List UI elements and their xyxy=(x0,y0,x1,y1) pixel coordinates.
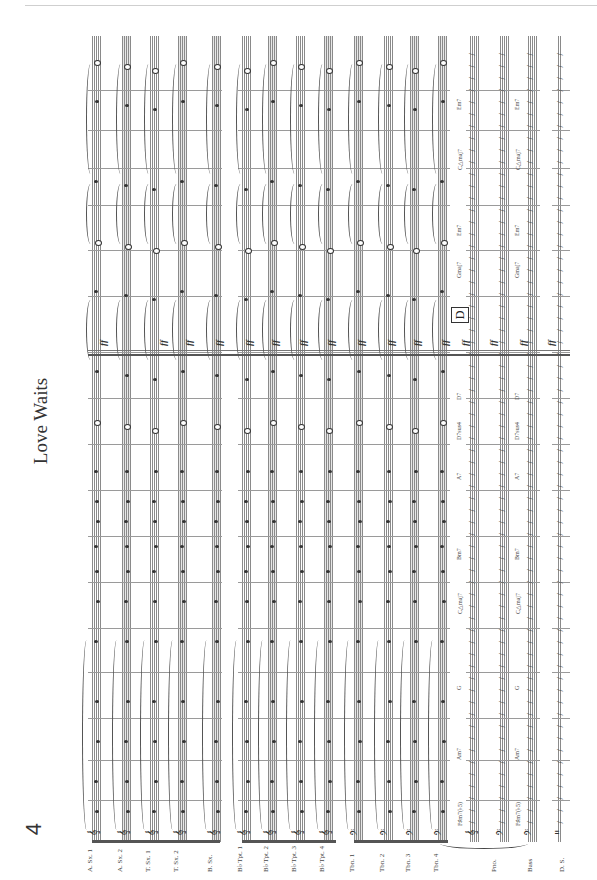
tie xyxy=(378,184,387,244)
note xyxy=(412,298,416,301)
note xyxy=(356,545,360,548)
slash-notation: / xyxy=(468,485,477,487)
tie xyxy=(262,300,271,360)
note xyxy=(214,184,218,187)
note xyxy=(181,240,188,246)
slash-notation: / xyxy=(556,161,565,163)
clef-icon: 𝄞 xyxy=(173,829,186,836)
note xyxy=(387,780,391,783)
note xyxy=(271,370,275,373)
tie xyxy=(206,64,215,174)
note xyxy=(299,244,306,250)
note xyxy=(326,298,330,301)
note xyxy=(216,700,220,703)
slash-notation: / xyxy=(498,377,507,379)
slash-notation: / xyxy=(468,221,477,223)
note xyxy=(412,810,416,813)
slash-notation: / xyxy=(556,437,565,439)
slash-notation: / xyxy=(498,341,507,343)
note xyxy=(94,290,98,293)
note xyxy=(270,640,274,643)
slash-notation: / xyxy=(526,125,535,127)
slash-notation: / xyxy=(468,365,477,367)
note xyxy=(328,470,332,473)
bracket xyxy=(354,840,448,843)
score-system: A. Sx. 1A. Sx. 2T. Sx. 1T. Sx. 2B. Sx.B♭… xyxy=(0,0,597,880)
slash-notation: / xyxy=(498,569,507,571)
note xyxy=(180,420,187,426)
note xyxy=(125,374,129,377)
slash-notation: / xyxy=(468,569,477,571)
slash-notation: / xyxy=(526,533,535,535)
note xyxy=(357,500,361,503)
slash-notation: / xyxy=(498,809,507,811)
note xyxy=(358,520,362,523)
slash-notation: / xyxy=(468,713,477,715)
slash-notation: / xyxy=(468,329,477,331)
chord-symbol: Gmaj7 xyxy=(514,262,520,278)
slash-notation: / xyxy=(556,209,565,211)
tie xyxy=(404,300,413,360)
slash-notation: / xyxy=(468,449,477,451)
slash-notation: / xyxy=(556,749,565,751)
barline xyxy=(88,168,222,169)
note xyxy=(386,64,393,70)
note xyxy=(412,700,416,703)
note xyxy=(246,780,250,783)
barline xyxy=(238,490,450,491)
slash-notation: / xyxy=(556,329,565,331)
slash-notation: / xyxy=(468,89,477,91)
note xyxy=(388,500,392,503)
slash-notation: / xyxy=(556,269,565,271)
slash-notation: / xyxy=(556,605,565,607)
note xyxy=(124,184,128,187)
tie xyxy=(172,184,181,244)
tie xyxy=(112,640,121,830)
note xyxy=(413,378,417,381)
note xyxy=(245,108,249,111)
note xyxy=(214,740,218,743)
note xyxy=(152,810,156,813)
note xyxy=(413,248,420,254)
note xyxy=(386,520,390,523)
slash-notation: / xyxy=(556,677,565,679)
note xyxy=(356,60,363,66)
slash-notation: / xyxy=(526,413,535,415)
note xyxy=(357,100,361,103)
staff-line xyxy=(442,36,443,842)
slash-notation: / xyxy=(556,245,565,247)
clef-icon: 𝄞 xyxy=(207,829,220,836)
note xyxy=(180,780,184,783)
staff-line xyxy=(218,36,219,842)
tie xyxy=(236,300,245,360)
slash-notation: / xyxy=(556,125,565,127)
note xyxy=(94,470,98,473)
staff-line xyxy=(128,36,129,842)
note xyxy=(298,600,302,603)
note xyxy=(181,700,185,703)
note xyxy=(94,60,101,66)
note xyxy=(244,68,251,74)
slash-notation: / xyxy=(498,473,507,475)
slash-notation: / xyxy=(498,353,507,355)
slash-notation: / xyxy=(498,329,507,331)
slash-notation: / xyxy=(468,461,477,463)
note xyxy=(271,810,275,813)
note xyxy=(152,68,159,74)
chord-symbol: D7 xyxy=(456,393,462,400)
instrument-label: T. Sx. 2 xyxy=(172,850,180,872)
note xyxy=(180,640,184,643)
note xyxy=(440,290,444,293)
slash-notation: / xyxy=(556,557,565,559)
staff-line xyxy=(152,36,153,842)
tie xyxy=(116,64,125,174)
staff-line xyxy=(328,36,329,842)
chord-symbol: Em7 xyxy=(456,225,462,236)
tie xyxy=(232,640,241,830)
slash-notation: / xyxy=(526,677,535,679)
barline xyxy=(88,130,222,131)
tie xyxy=(168,640,177,830)
slash-notation: / xyxy=(556,473,565,475)
note xyxy=(326,500,330,503)
chord-symbol: Em7 xyxy=(514,225,520,236)
